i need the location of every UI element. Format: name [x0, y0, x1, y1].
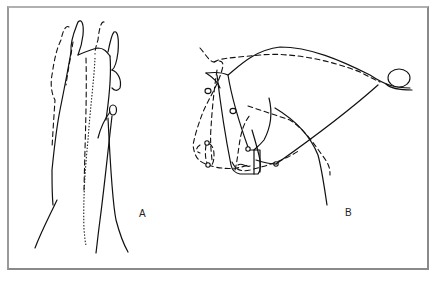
panel-b-label: B — [345, 207, 352, 218]
panel-b-drawing — [193, 47, 412, 205]
horse-drawing — [0, 0, 438, 281]
panel-a-label: A — [139, 208, 146, 219]
panel-a-drawing — [35, 21, 128, 253]
